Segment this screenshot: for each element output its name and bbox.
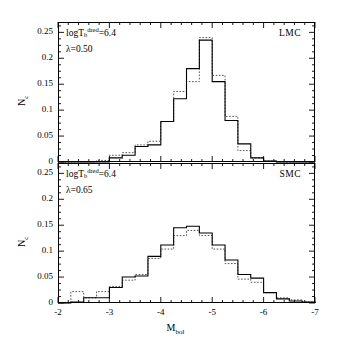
y-tick-label: 0.2 (0, 193, 53, 203)
x-tick-label: -4 (141, 307, 181, 317)
panel-label-smc: SMC (279, 169, 301, 179)
annot-lambda-lmc: λ=0.50 (66, 44, 93, 54)
y-tick-label: 0.05 (0, 271, 53, 281)
y-tick-label: 0 (0, 297, 53, 307)
annotation-temperature-lmc: logTbdred=6.4 (66, 26, 116, 38)
y-tick-label: 0 (0, 156, 53, 166)
x-tick-label: -6 (244, 307, 284, 317)
y-tick-label: 0.15 (0, 219, 53, 229)
panel-lmc: logTbdred=6.4 λ=0.50 LMC (58, 22, 315, 162)
y-tick-label: 0.05 (0, 130, 53, 140)
annot-temp-base-smc: logT (66, 169, 84, 179)
annot-temp-base-lmc: logT (66, 28, 84, 38)
x-tick-label: -2 (38, 307, 78, 317)
panel-smc: logTbdred=6.4 λ=0.65 SMC (58, 163, 315, 303)
plot-frame-smc (58, 163, 315, 303)
y-tick-label: 0.15 (0, 78, 53, 88)
y-tick-label: 0.1 (0, 245, 53, 255)
plot-frame-lmc (58, 22, 315, 162)
y-tick-label: 0.25 (0, 26, 53, 36)
x-tick-label: -7 (295, 307, 335, 317)
y-tick-label: 0.1 (0, 104, 53, 114)
annot-temp-value-lmc: =6.4 (99, 28, 116, 38)
annot-temp-value-smc: =6.4 (99, 169, 116, 179)
annot-lambda-smc: λ=0.65 (66, 185, 93, 195)
annot-temp-sup-smc: dred (87, 167, 99, 174)
x-tick-label: -3 (89, 307, 129, 317)
annotation-lambda-lmc: λ=0.50 (66, 44, 93, 54)
x-axis-title-sub: bol (175, 328, 184, 336)
y-axis-title-sub-lmc: c (22, 96, 30, 99)
x-axis-title: Mbol (0, 322, 351, 336)
panel-label-lmc: LMC (279, 28, 301, 38)
annotation-lambda-smc: λ=0.65 (66, 185, 93, 195)
y-tick-label: 0.25 (0, 167, 53, 177)
x-tick-label: -5 (192, 307, 232, 317)
y-axis-title-sub-smc: c (22, 237, 30, 240)
figure-root: logTbdred=6.4 λ=0.50 LMC logTbdred=6.4 λ… (0, 0, 351, 344)
annotation-temperature-smc: logTbdred=6.4 (66, 167, 116, 179)
annot-temp-sup-lmc: dred (87, 26, 99, 33)
y-tick-label: 0.2 (0, 52, 53, 62)
